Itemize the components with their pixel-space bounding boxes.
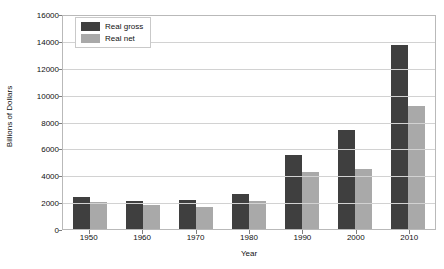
y-axis-tick-mark [58,149,62,150]
x-axis-tick-mark [356,230,357,234]
y-axis-tick-label: 2000 [13,199,59,208]
x-axis-tick-mark [89,230,90,234]
y-axis-tick-mark [58,203,62,204]
x-axis-title: Year [62,249,436,258]
x-axis-tick-label: 2000 [331,233,381,242]
y-axis-tick-mark [58,230,62,231]
bar [126,201,143,229]
legend-swatch-real-net [81,34,100,43]
x-axis-tick-label: 1980 [224,233,274,242]
bar [90,202,107,229]
y-axis-tick-mark [58,42,62,43]
gridline [63,69,435,70]
y-axis-tick-label: 12000 [13,64,59,73]
x-axis-tick-mark [409,230,410,234]
y-axis-tick-label: 16000 [13,11,59,20]
gridline [63,123,435,124]
bar-chart: Billions of Dollars 19501960197019801990… [0,0,444,269]
legend-item-real-gross: Real gross [81,22,143,31]
gridline [63,149,435,150]
y-axis-tick-mark [58,176,62,177]
y-axis-tick-label: 4000 [13,172,59,181]
x-axis-tick-labels: 1950196019701980199020002010 [62,233,436,247]
x-axis-tick-mark [142,230,143,234]
x-axis-tick-mark [302,230,303,234]
y-axis-tick-mark [58,96,62,97]
bar [408,106,425,229]
y-axis-tick-label: 14000 [13,37,59,46]
y-axis-tick-label: 8000 [13,118,59,127]
bar [302,172,319,229]
x-axis-tick-label: 1950 [64,233,114,242]
bar [285,155,302,229]
x-axis-tick-label: 2010 [384,233,434,242]
y-axis-tick-mark [58,69,62,70]
y-axis-title: Billions of Dollars [2,0,18,232]
bar [143,205,160,229]
bar [249,201,266,229]
bar [338,130,355,229]
bar [355,169,372,229]
y-axis-tick-label: 10000 [13,91,59,100]
bar [391,45,408,229]
gridline [63,203,435,204]
gridline [63,176,435,177]
x-axis-tick-mark [249,230,250,234]
x-axis-tick-label: 1970 [171,233,221,242]
gridline [63,96,435,97]
bar [232,194,249,229]
chart-legend: Real gross Real net [75,17,151,48]
legend-label-real-gross: Real gross [105,22,143,31]
x-axis-tick-label: 1990 [277,233,327,242]
legend-item-real-net: Real net [81,34,143,43]
bar [179,200,196,229]
y-axis-tick-label: 6000 [13,145,59,154]
y-axis-tick-mark [58,123,62,124]
bar [196,207,213,229]
legend-swatch-real-gross [81,22,100,31]
x-axis-tick-mark [196,230,197,234]
y-axis-tick-mark [58,15,62,16]
y-axis-tick-label: 0 [13,226,59,235]
x-axis-tick-label: 1960 [117,233,167,242]
legend-label-real-net: Real net [105,34,135,43]
